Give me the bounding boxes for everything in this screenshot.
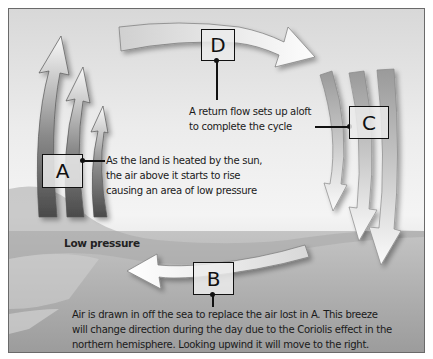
caption-a-line-3: causing an area of low pressure <box>106 183 262 198</box>
leader-line-a <box>83 160 105 162</box>
caption-b-line-2: will change direction during the day due… <box>72 322 392 337</box>
caption-b-line-3: northern hemisphere. Looking upwind it w… <box>72 337 392 352</box>
leader-line-c <box>315 126 349 128</box>
caption-d: A return flow sets up aloft to complete … <box>189 104 311 134</box>
label-c-letter: C <box>362 111 376 135</box>
leader-line-b <box>212 294 214 307</box>
caption-d-line-1: A return flow sets up aloft <box>189 104 311 119</box>
label-d-letter: D <box>210 33 225 57</box>
caption-a: As the land is heated by the sun, the ai… <box>106 153 262 198</box>
label-d-box: D <box>201 29 235 61</box>
diagram-frame: D A return flow sets up aloft to complet… <box>8 8 425 353</box>
label-c-box: C <box>349 106 389 139</box>
caption-b: Air is drawn in off the sea to replace t… <box>72 307 392 352</box>
caption-a-line-2: the air above it starts to rise <box>106 168 262 183</box>
label-b-letter: B <box>207 267 221 291</box>
label-a-letter: A <box>56 159 70 183</box>
caption-b-line-1: Air is drawn in off the sea to replace t… <box>72 307 392 322</box>
caption-a-line-1: As the land is heated by the sun, <box>106 153 262 168</box>
label-b-box: B <box>193 262 234 295</box>
leader-line-d <box>216 60 218 100</box>
low-pressure-label: Low pressure <box>64 237 140 249</box>
label-a-box: A <box>42 154 83 188</box>
rising-air-arrows <box>37 36 108 217</box>
caption-d-line-2: to complete the cycle <box>189 119 311 134</box>
